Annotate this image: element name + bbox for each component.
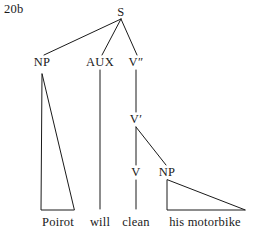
edge-s-to-v2 [121, 19, 137, 55]
np-triangle-object [167, 180, 245, 210]
node-np-subject: NP [34, 56, 51, 69]
node-v: V [131, 166, 140, 179]
leaf-his-motorbike: his motorbike [169, 216, 241, 229]
tree-branches-svg [0, 0, 256, 238]
syntax-tree-figure: 20b S NP AUX V″ V′ V NP Poirot will clea… [0, 0, 256, 238]
edge-s-to-aux [102, 19, 121, 55]
leaf-poirot: Poirot [42, 216, 74, 229]
node-v-double-bar: V″ [129, 56, 144, 69]
edge-s-to-np [44, 19, 121, 55]
edge-v1-to-np2 [136, 127, 166, 165]
node-aux: AUX [86, 56, 114, 69]
node-v-bar: V′ [130, 113, 142, 126]
leaf-clean: clean [122, 216, 149, 229]
leaf-will: will [90, 216, 110, 229]
node-np-object: NP [159, 166, 176, 179]
np-triangle-subject [41, 74, 74, 210]
node-s: S [117, 6, 124, 19]
